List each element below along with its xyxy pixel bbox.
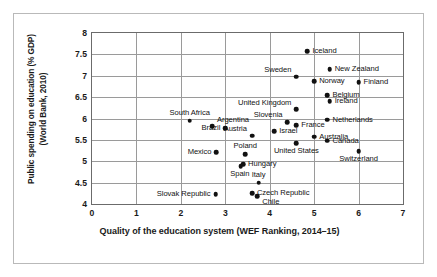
data-point-label: Mexico [188, 148, 212, 156]
data-point-label: Israel [279, 127, 297, 135]
data-point-label: Chile [262, 198, 279, 206]
data-point [312, 79, 317, 84]
y-axis-title: Public spending on education (% GDP) (Wo… [26, 19, 60, 199]
data-point-label: Brazil [202, 124, 221, 132]
gridline-vertical [136, 33, 137, 204]
data-point [285, 120, 290, 125]
data-point-label: Slovak Republic [157, 190, 211, 198]
data-point [325, 138, 330, 143]
data-point-label: Norway [319, 77, 344, 85]
x-tick-label: 2 [166, 208, 196, 218]
gridline-horizontal [92, 54, 403, 55]
y-tick-label: 6.5 [47, 92, 87, 102]
y-tick-label: 6 [47, 114, 87, 124]
data-point-label: Switzerland [339, 155, 378, 163]
data-point-label: Sweden [264, 66, 291, 74]
gridline-vertical [181, 33, 182, 204]
data-point [256, 180, 261, 185]
data-point [327, 67, 332, 72]
data-point-label: Austria [224, 125, 247, 133]
data-point-label: Poland [234, 142, 257, 150]
data-point [294, 74, 299, 79]
x-axis-title: Quality of the education system (WEF Ran… [14, 226, 425, 236]
data-point-label: Italy [252, 170, 266, 178]
data-point [255, 194, 260, 199]
data-point [305, 49, 310, 54]
data-point [312, 135, 317, 140]
data-point-label: United Kingdom [238, 98, 291, 106]
data-point-label: Hungary [248, 160, 276, 168]
y-tick-label: 7 [47, 71, 87, 81]
data-point-label: Iceland [312, 47, 336, 55]
data-point [272, 129, 277, 134]
data-point-label: Canada [332, 137, 358, 145]
x-tick-label: 3 [210, 208, 240, 218]
data-point [213, 192, 218, 197]
data-point [294, 107, 299, 112]
data-point [187, 118, 192, 123]
data-point-label: Spain [230, 170, 249, 178]
data-point-label: Ireland [335, 97, 358, 105]
y-tick-label: 4.5 [47, 178, 87, 188]
data-point [325, 117, 330, 122]
data-point-label: Netherlands [332, 116, 372, 124]
data-point-label: South Africa [170, 108, 210, 116]
x-tick-label: 6 [344, 208, 374, 218]
x-tick-label: 1 [121, 208, 151, 218]
data-point-label: Slovenia [254, 111, 283, 119]
data-point-label: United States [274, 147, 319, 155]
data-point-label: New Zealand [335, 65, 379, 73]
y-tick-label: 7.5 [47, 49, 87, 59]
x-tick-label: 0 [77, 208, 107, 218]
y-tick-label: 5 [47, 156, 87, 166]
data-point [325, 93, 330, 98]
y-tick-label: 5.5 [47, 135, 87, 145]
x-tick-label: 5 [299, 208, 329, 218]
gridline-horizontal [92, 76, 403, 77]
data-point [214, 150, 219, 155]
chart-figure: Public spending on education (% GDP) (Wo… [13, 13, 424, 264]
data-point-label: Argentina [217, 115, 249, 123]
data-point-label: Finland [364, 78, 389, 86]
gridline-vertical [314, 33, 315, 204]
gridline-horizontal [92, 183, 403, 184]
data-point [327, 99, 332, 104]
data-point [250, 133, 255, 138]
y-axis-title-line2: (World Bank, 2010) [38, 19, 50, 199]
x-tick-label: 4 [255, 208, 285, 218]
y-tick-label: 8 [47, 28, 87, 38]
x-tick-label: 7 [388, 208, 418, 218]
plot-area: 44.555.566.577.58 01234567 IcelandNew Ze… [91, 32, 404, 205]
data-point [356, 80, 361, 85]
data-point [243, 152, 248, 157]
data-point-label: France [301, 121, 324, 129]
y-axis-title-line1: Public spending on education (% GDP) [26, 19, 38, 199]
data-point [250, 191, 255, 196]
